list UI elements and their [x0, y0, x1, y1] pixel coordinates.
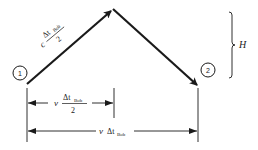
light-ray-down-arrow: [113, 9, 197, 85]
diag-den: 2: [54, 34, 63, 43]
half-distance-label: v Δt Bob 2: [54, 93, 87, 115]
half-num-sub: Bob: [74, 98, 83, 103]
full-delta: Δt: [107, 127, 115, 136]
light-path-diagram: 1 2 c Δt Bob 2 H v Δt Bob 2 v Δt Bob: [0, 0, 258, 150]
half-den: 2: [71, 106, 75, 115]
event-2-marker: 2: [201, 63, 215, 77]
diagonal-distance-label: c Δt Bob 2: [34, 19, 70, 54]
height-label: H: [238, 39, 247, 50]
full-coef: v: [99, 126, 103, 136]
event-1-label: 1: [18, 70, 22, 77]
half-coef: v: [54, 98, 58, 108]
diag-coef: c: [38, 39, 47, 49]
full-distance-label: v Δt Bob: [99, 126, 126, 137]
diag-num-sub: Bob: [52, 24, 62, 34]
event-1-marker: 1: [13, 66, 27, 80]
full-sub: Bob: [117, 132, 126, 137]
height-bracket: [229, 12, 235, 78]
event-2-label: 2: [206, 67, 210, 74]
half-num-delta: Δt: [63, 93, 71, 102]
light-ray-up-arrow: [27, 11, 111, 84]
